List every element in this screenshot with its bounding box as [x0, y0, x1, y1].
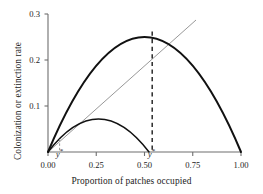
x-tick-label-0.00: 0.00: [31, 160, 65, 170]
x-tick-label-1.00: 1.00: [224, 160, 258, 170]
stable-equilibrium-label-sup: *: [152, 147, 156, 155]
x-tick-label-0.25: 0.25: [79, 160, 113, 170]
extinction-curve-series: [48, 119, 149, 152]
unstable-equilibrium-label: y*: [56, 150, 63, 159]
colonization-curve-series: [48, 37, 241, 152]
y-axis-title: Colonization or extinction rate: [13, 42, 23, 160]
unstable-equilibrium-label-sup: *: [60, 147, 64, 155]
chart-figure: 0.3 0.2 0.1 0.00 0.25 0.50 0.75 1.00 y* …: [0, 0, 263, 194]
x-tick-label-0.50: 0.50: [128, 160, 162, 170]
stable-equilibrium-label: y*: [148, 150, 155, 159]
y-tick-label-0.3: 0.3: [14, 9, 40, 19]
tangent-line-series: [48, 20, 196, 152]
x-axis-title: Proportion of patches occupied: [0, 176, 263, 186]
x-tick-marks: [48, 152, 241, 156]
x-tick-label-0.75: 0.75: [176, 160, 210, 170]
